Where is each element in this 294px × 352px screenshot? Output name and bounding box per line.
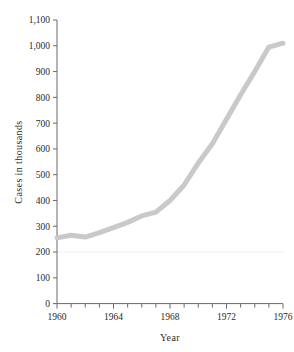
x-axis-tick-label: 1960 (48, 312, 67, 322)
y-axis-tick-label: 400 (36, 196, 51, 206)
x-axis-tick-label: 1972 (217, 312, 236, 322)
x-axis-tick-label: 1968 (161, 312, 180, 322)
y-axis-tick-label: 600 (36, 144, 51, 154)
line-chart: 01002003004005006007008009001,0001,100 1… (0, 0, 294, 352)
chart-canvas: 01002003004005006007008009001,0001,100 1… (0, 0, 294, 352)
y-axis-title: Cases in thousands (13, 120, 24, 203)
y-axis-tick-labels: 01002003004005006007008009001,0001,100 (29, 15, 51, 309)
y-axis-tick-label: 100 (36, 273, 51, 283)
x-axis-title: Year (160, 332, 180, 343)
y-axis-tick-label: 1,000 (29, 41, 51, 51)
x-axis-tick-label: 1964 (104, 312, 123, 322)
y-axis-tick-label: 900 (36, 67, 51, 77)
y-axis-tick-label: 800 (36, 93, 51, 103)
x-axis-tick-label: 1976 (274, 312, 293, 322)
y-axis-tick-label: 1,100 (29, 15, 51, 25)
y-axis-tick-label: 700 (36, 119, 51, 129)
x-axis-ticks (57, 304, 283, 309)
y-axis-tick-label: 0 (45, 299, 50, 309)
x-axis-tick-labels: 19601964196819721976 (48, 312, 293, 322)
y-axis-tick-label: 300 (36, 222, 51, 232)
data-series-line (57, 43, 283, 238)
y-axis-tick-label: 200 (36, 247, 51, 257)
y-axis-ticks (53, 20, 57, 304)
y-axis-tick-label: 500 (36, 170, 51, 180)
